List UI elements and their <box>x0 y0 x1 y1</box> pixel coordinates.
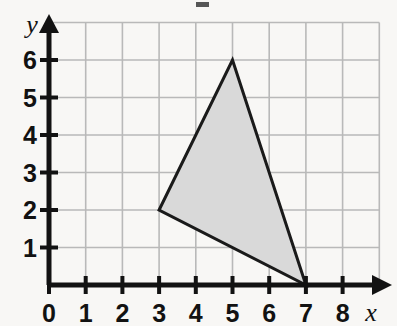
y-axis-arrow-icon <box>39 14 59 33</box>
x-tick-label: 5 <box>226 299 240 326</box>
y-tick-label: 6 <box>23 46 37 74</box>
x-tick-label: 0 <box>42 299 56 326</box>
y-tick-label: 1 <box>23 234 37 262</box>
x-tick-label: 4 <box>189 299 203 326</box>
y-tick-label: 5 <box>23 84 37 112</box>
plot-area: 012345678 123456 x y <box>0 0 397 326</box>
coordinate-grid-figure: 012345678 123456 x y <box>0 0 397 326</box>
x-tick-label: 7 <box>299 299 313 326</box>
x-tick-label: 6 <box>262 299 276 326</box>
y-axis-label: y <box>23 10 38 39</box>
x-tick-label: 8 <box>336 299 350 326</box>
y-tick-label: 4 <box>23 121 37 149</box>
y-tick-label: 3 <box>23 159 37 187</box>
y-tick-label: 2 <box>23 196 37 224</box>
x-axis-arrow-icon <box>372 275 392 295</box>
x-axis-tick-labels: 012345678 <box>42 299 350 326</box>
x-tick-label: 2 <box>115 299 129 326</box>
y-axis-tick-labels: 123456 <box>23 46 37 262</box>
x-axis-label: x <box>364 298 377 326</box>
x-tick-label: 1 <box>79 299 93 326</box>
x-tick-label: 3 <box>152 299 166 326</box>
